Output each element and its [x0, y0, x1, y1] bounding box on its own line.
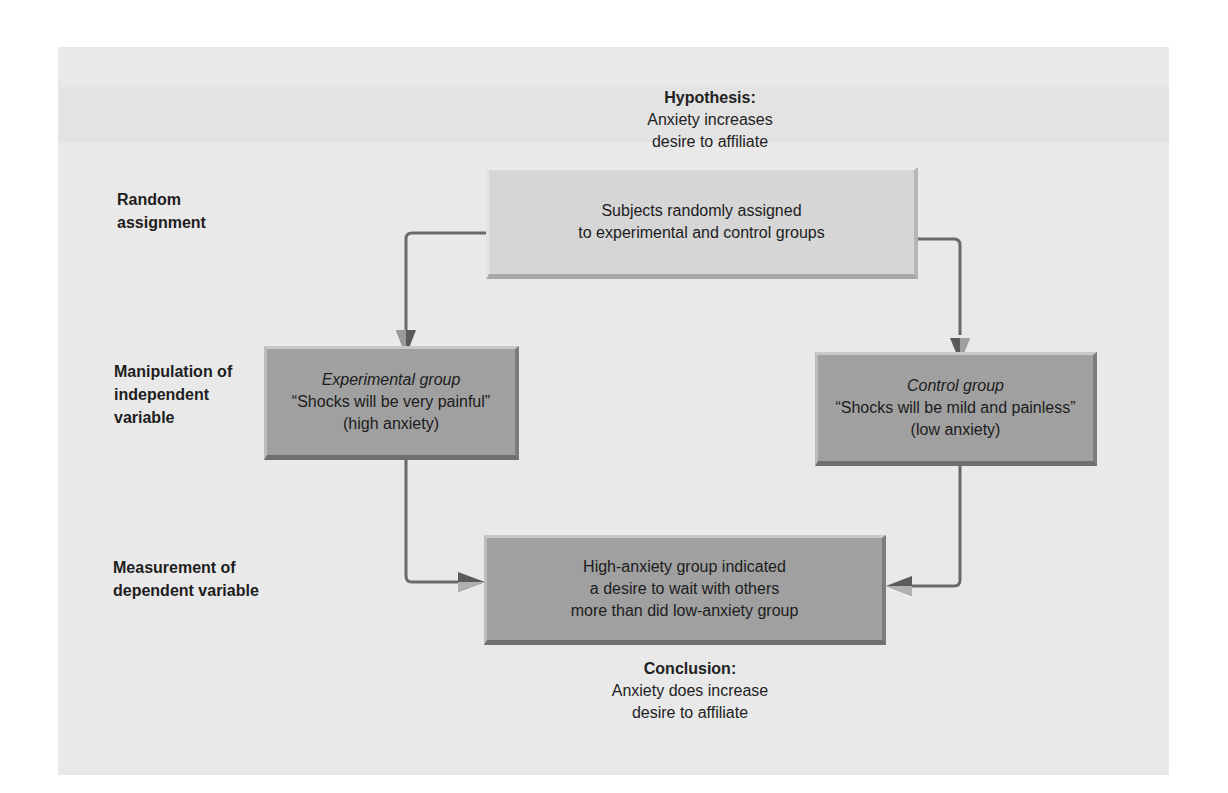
conclusion-heading: Conclusion: — [570, 658, 810, 680]
experimental-group-box: Experimental group “Shocks will be very … — [264, 346, 519, 460]
arrow-to-experimental — [406, 233, 486, 335]
experimental-quote: “Shocks will be very painful” — [267, 391, 515, 413]
assignment-line: Subjects randomly assigned — [489, 200, 914, 222]
arrow-ctrl-to-result — [905, 463, 960, 586]
result-line: a desire to wait with others — [487, 578, 882, 600]
experimental-title: Experimental group — [267, 369, 515, 391]
control-quote: “Shocks will be mild and painless” — [818, 397, 1093, 419]
result-line: more than did low-anxiety group — [487, 600, 882, 622]
arrow-to-control — [916, 239, 960, 335]
assignment-box: Subjects randomly assigned to experiment… — [486, 167, 918, 279]
result-box: High-anxiety group indicated a desire to… — [484, 535, 886, 645]
conclusion-line: Anxiety does increase — [570, 680, 810, 702]
conclusion-caption: Conclusion: Anxiety does increase desire… — [570, 658, 810, 724]
assignment-line: to experimental and control groups — [489, 222, 914, 244]
conclusion-line: desire to affiliate — [570, 702, 810, 724]
experimental-note: (high anxiety) — [267, 413, 515, 435]
control-note: (low anxiety) — [818, 419, 1093, 441]
result-line: High-anxiety group indicated — [487, 556, 882, 578]
control-title: Control group — [818, 375, 1093, 397]
control-group-box: Control group “Shocks will be mild and p… — [815, 352, 1097, 466]
arrow-exp-to-result — [406, 457, 465, 582]
